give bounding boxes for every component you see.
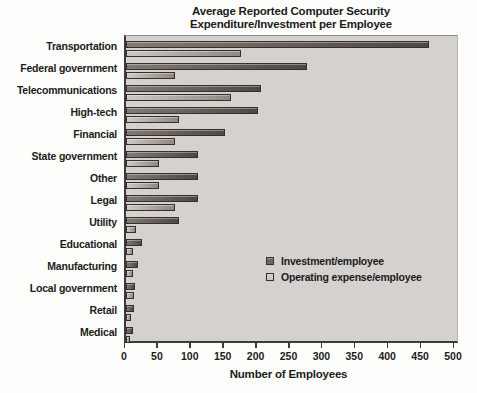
investment-bar: [126, 107, 258, 114]
operating-expense-bar: [126, 226, 136, 233]
operating-expense-bar: [126, 292, 134, 299]
chart-title-line2: Expenditure/Investment per Employee: [124, 18, 458, 31]
chart-title: Average Reported Computer Security Expen…: [124, 5, 458, 31]
tick-label: 450: [411, 350, 429, 362]
x-axis-ticks: 050100150200250300350400450500: [124, 343, 453, 367]
investment-bar: [126, 41, 429, 48]
investment-bar: [126, 261, 138, 268]
investment-swatch-icon: [266, 257, 274, 265]
category-label: Federal government: [0, 57, 117, 79]
operating-expense-bar: [126, 182, 159, 189]
category-label: Financial: [0, 123, 117, 145]
investment-bar: [126, 63, 307, 70]
bar-group: [126, 80, 455, 102]
bar-group: [126, 190, 455, 212]
chart-title-line1: Average Reported Computer Security: [124, 5, 458, 18]
tick-label: 300: [313, 350, 331, 362]
operating-expense-bar: [126, 160, 159, 167]
tick-mark: [189, 343, 191, 348]
tick-label: 0: [121, 350, 127, 362]
tick-mark: [255, 343, 257, 348]
bar-group: [126, 36, 455, 58]
operating-expense-bar: [126, 270, 133, 277]
legend-item-operating: Operating expense/employee: [266, 269, 422, 285]
bar-group: [126, 58, 455, 80]
tick-label: 150: [214, 350, 232, 362]
investment-bar: [126, 151, 198, 158]
category-label: Telecommunications: [0, 79, 117, 101]
category-label: High-tech: [0, 101, 117, 123]
category-label: Manufacturing: [0, 255, 117, 277]
plot-area: [124, 35, 458, 343]
tick-label: 350: [346, 350, 364, 362]
investment-bar: [126, 129, 225, 136]
bar-group: [126, 124, 455, 146]
legend-label-operating: Operating expense/employee: [281, 271, 422, 283]
operating-expense-bar: [126, 72, 175, 79]
bar-group: [126, 146, 455, 168]
category-label: Utility: [0, 211, 117, 233]
operating-expense-bar: [126, 314, 131, 321]
tick-label: 100: [181, 350, 199, 362]
tick-label: 200: [247, 350, 265, 362]
category-label: Educational: [0, 233, 117, 255]
operating-expense-bar: [126, 248, 133, 255]
operating-expense-bar: [126, 138, 175, 145]
investment-bar: [126, 239, 142, 246]
tick-mark: [321, 343, 323, 348]
bar-group: [126, 168, 455, 190]
tick-label: 400: [378, 350, 396, 362]
operating-expense-bar: [126, 116, 179, 123]
category-label: Other: [0, 167, 117, 189]
category-label: Retail: [0, 299, 117, 321]
bar-rows: [126, 36, 455, 344]
operating-swatch-icon: [266, 273, 274, 281]
investment-bar: [126, 217, 179, 224]
tick-label: 50: [151, 350, 163, 362]
legend-label-investment: Investment/employee: [281, 255, 384, 267]
category-label: Local government: [0, 277, 117, 299]
bar-group: [126, 300, 455, 322]
investment-bar: [126, 173, 198, 180]
tick-mark: [222, 343, 224, 348]
tick-mark: [453, 343, 455, 348]
category-labels: TransportationFederal governmentTelecomm…: [0, 35, 117, 343]
investment-bar: [126, 283, 135, 290]
tick-label: 250: [280, 350, 298, 362]
legend-item-investment: Investment/employee: [266, 253, 422, 269]
investment-bar: [126, 195, 198, 202]
bar-group: [126, 322, 455, 344]
operating-expense-bar: [126, 204, 175, 211]
tick-mark: [156, 343, 158, 348]
operating-expense-bar: [126, 94, 231, 101]
operating-expense-bar: [126, 50, 241, 57]
category-label: State government: [0, 145, 117, 167]
tick-mark: [354, 343, 356, 348]
investment-bar: [126, 327, 133, 334]
legend: Investment/employee Operating expense/em…: [266, 253, 422, 285]
tick-mark: [420, 343, 422, 348]
tick-mark: [288, 343, 290, 348]
bar-group: [126, 102, 455, 124]
investment-bar: [126, 85, 261, 92]
chart-figure: Average Reported Computer Security Expen…: [0, 0, 477, 393]
x-axis-title: Number of Employees: [124, 368, 453, 380]
bar-group: [126, 212, 455, 234]
operating-expense-bar: [126, 336, 130, 343]
investment-bar: [126, 305, 134, 312]
tick-mark: [387, 343, 389, 348]
tick-label: 500: [444, 350, 462, 362]
category-label: Legal: [0, 189, 117, 211]
category-label: Transportation: [0, 35, 117, 57]
tick-mark: [124, 343, 126, 348]
category-label: Medical: [0, 321, 117, 343]
